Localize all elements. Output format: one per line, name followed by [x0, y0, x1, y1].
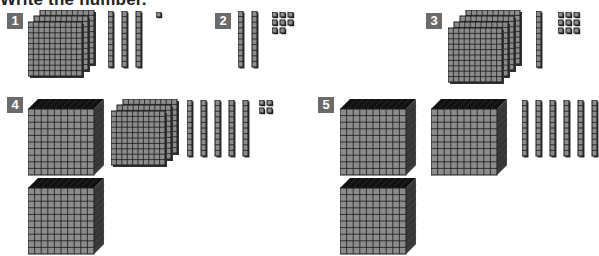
problem-3-tens-rods [536, 11, 552, 70]
problem-4-thousands-cube-2 [28, 178, 106, 256]
problem-2-label: 2 [215, 13, 231, 29]
problem-5-thousands-cube-2 [431, 99, 509, 177]
problem-1-hundreds-flats [28, 10, 100, 80]
problem-4-ones-cubes [259, 100, 277, 118]
problem-3-label: 3 [426, 13, 442, 29]
problem-1-tens-rods [108, 11, 152, 70]
problem-5-thousands-cube-3 [340, 178, 418, 256]
worksheet-title: Write the number. [0, 0, 147, 8]
problem-4-hundreds-flats [111, 99, 183, 169]
problem-1-ones-cubes [156, 12, 182, 22]
problem-3-hundreds-flats [448, 10, 526, 86]
problem-2-tens-rods [238, 11, 268, 70]
problem-5-label: 5 [318, 97, 334, 113]
problem-2-ones-cubes [272, 12, 298, 38]
problem-4-label: 4 [7, 97, 23, 113]
problem-4-thousands-cube-1 [28, 99, 106, 177]
problem-4-tens-rods [187, 100, 259, 159]
problem-5-tens-rods [522, 100, 599, 159]
problem-1-label: 1 [7, 13, 23, 29]
problem-5-thousands-cube-1 [340, 99, 418, 177]
problem-3-ones-cubes [558, 12, 584, 38]
